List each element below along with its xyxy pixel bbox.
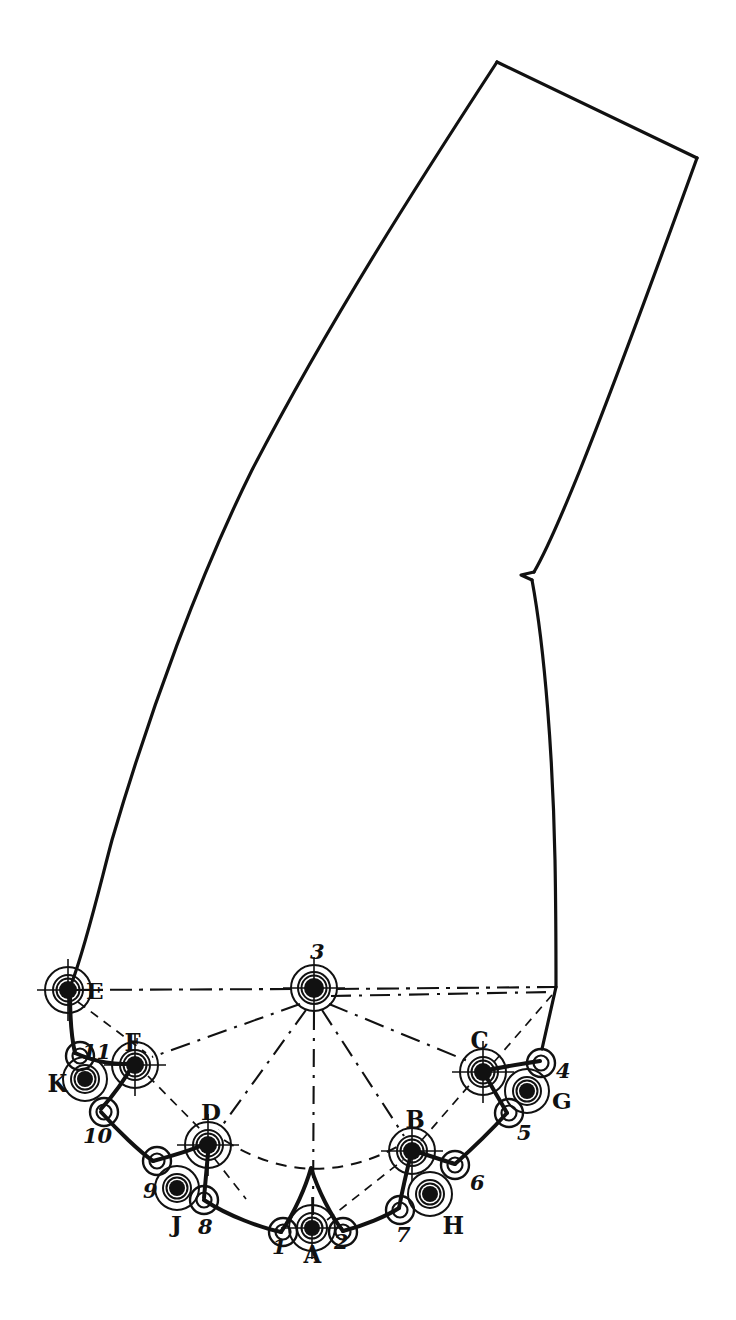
- label-point-e: E: [86, 979, 104, 1002]
- label-hinge-1: 1: [272, 1236, 287, 1257]
- hinge-ring: [90, 1098, 118, 1126]
- leader-C-to-corner: [494, 995, 552, 1062]
- label-point-k: K: [48, 1072, 67, 1096]
- label-point-f: F: [124, 1031, 140, 1055]
- pivot-center-dot: [403, 1142, 421, 1160]
- outline-right-edge-lower: [532, 580, 556, 987]
- pivot-node-G[interactable]: [505, 1069, 549, 1113]
- label-hinge-11: 11: [82, 1041, 111, 1062]
- figure-canvas: ABCDEFGHJK 1234567891011: [0, 0, 736, 1320]
- label-point-d: D: [201, 1100, 221, 1123]
- pivot-center-dot: [304, 978, 324, 998]
- label-point-b: B: [405, 1108, 424, 1132]
- radial-3-to-right-corner: [331, 992, 551, 996]
- label-hinge-6: 6: [470, 1172, 485, 1193]
- leader-F-to-D: [148, 1076, 203, 1132]
- pivot-node-J[interactable]: [155, 1166, 199, 1210]
- outline-top-edge: [497, 62, 697, 158]
- technical-drawing: [0, 0, 736, 1320]
- label-hinge-7: 7: [396, 1224, 411, 1245]
- label-hinge-2: 2: [334, 1231, 349, 1252]
- label-point-c: C: [470, 1029, 488, 1053]
- baseline-dashdot-right: [337, 987, 556, 989]
- hinge-point-10[interactable]: [90, 1098, 118, 1126]
- pivot-center-dot: [422, 1186, 438, 1202]
- label-point-a: A: [303, 1243, 320, 1267]
- label-hinge-3: 3: [310, 941, 325, 962]
- link-6-to-5: [455, 1113, 507, 1164]
- label-point-h: H: [443, 1214, 464, 1238]
- radial-3-to-D: [219, 1010, 306, 1130]
- outline-corner-to-4: [542, 987, 556, 1049]
- pattern-outline: [72, 62, 697, 1049]
- outline-left-edge: [72, 62, 497, 982]
- label-hinge-4: 4: [556, 1060, 571, 1081]
- outline-right-edge-upper: [534, 158, 697, 572]
- label-point-j: J: [171, 1212, 182, 1235]
- pivot-center-dot: [474, 1063, 492, 1081]
- pivot-node-3[interactable]: [283, 957, 345, 1019]
- label-hinge-9: 9: [143, 1180, 158, 1201]
- pivot-layer: [37, 957, 549, 1259]
- pivot-center-dot: [304, 1220, 320, 1236]
- radial-3-to-A: [313, 1012, 314, 1219]
- label-hinge-8: 8: [198, 1216, 213, 1237]
- pivot-center-dot: [519, 1083, 535, 1099]
- label-hinge-5: 5: [517, 1122, 532, 1143]
- label-point-g: G: [552, 1089, 572, 1112]
- leader-D-to-8: [214, 1158, 246, 1199]
- pivot-center-dot: [77, 1071, 93, 1087]
- pivot-node-H[interactable]: [408, 1172, 452, 1216]
- leader-B-to-C: [421, 1081, 473, 1141]
- pivot-center-dot: [199, 1136, 217, 1154]
- pivot-center-dot: [126, 1056, 144, 1074]
- pivot-center-dot: [169, 1180, 185, 1196]
- pivot-center-dot: [59, 981, 77, 999]
- label-hinge-10: 10: [83, 1125, 112, 1146]
